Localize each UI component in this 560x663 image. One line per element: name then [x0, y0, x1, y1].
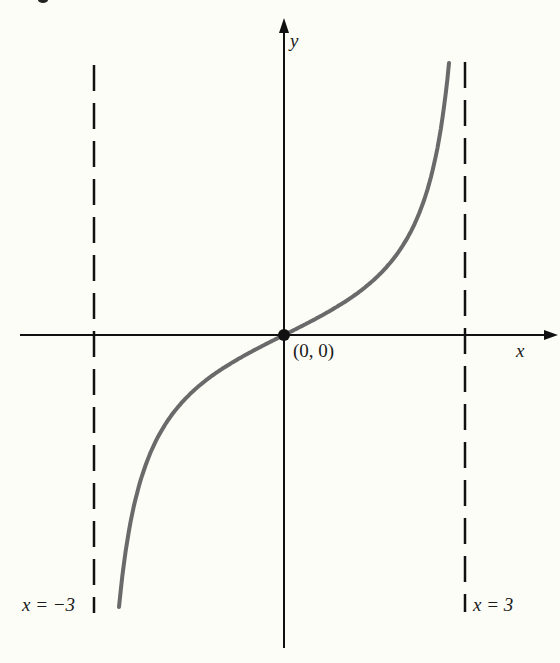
cropped-glyph [38, 0, 48, 3]
origin-point [278, 329, 290, 341]
x-axis-label: x [516, 340, 524, 362]
y-axis-arrow-icon [279, 18, 289, 33]
y-axis-label: y [290, 30, 298, 52]
asymptote-left-label: x = −3 [22, 594, 75, 616]
graph-canvas [0, 0, 560, 663]
asymptote-right-label: x = 3 [473, 594, 513, 616]
origin-label: (0, 0) [293, 340, 334, 362]
x-axis-arrow-icon [544, 330, 558, 340]
